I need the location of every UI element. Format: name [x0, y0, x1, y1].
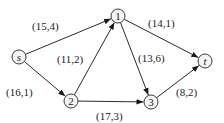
edge-label-3-t: (8,2)	[176, 86, 197, 99]
node-label-2: 2	[68, 95, 74, 107]
edge-label-s-1: (15,4)	[32, 20, 59, 33]
node-1: 1	[111, 9, 125, 23]
node-label-1: 1	[115, 10, 121, 22]
node-2: 2	[64, 94, 78, 108]
node-s: s	[12, 50, 26, 64]
edge-label-1-3: (13,6)	[138, 52, 165, 65]
node-label-3: 3	[148, 96, 154, 108]
edge-label-1-t: (14,1)	[148, 17, 175, 30]
edge-2-3	[78, 101, 144, 102]
diagram-svg: s1t23 (15,4)(16,1)(11,2)(13,6)(14,1)(17,…	[0, 0, 224, 123]
node-t: t	[198, 54, 212, 68]
node-label-s: s	[17, 51, 21, 63]
edge-label-s-2: (16,1)	[6, 86, 33, 99]
flow-network-diagram: s1t23 (15,4)(16,1)(11,2)(13,6)(14,1)(17,…	[0, 0, 224, 123]
edge-label-2-3: (17,3)	[96, 110, 123, 123]
node-3: 3	[144, 95, 158, 109]
edge-label-2-1: (11,2)	[57, 53, 84, 66]
